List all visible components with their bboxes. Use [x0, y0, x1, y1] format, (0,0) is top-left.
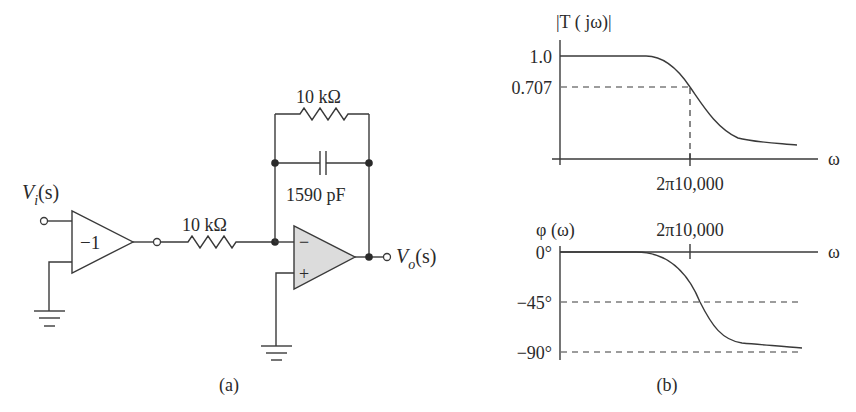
magnitude-xtick-label: 2π10,000	[656, 174, 724, 194]
junction-dot-icon	[271, 159, 279, 167]
caption-a: (a)	[219, 375, 239, 396]
magnitude-ytick-1: 1.0	[530, 47, 553, 67]
magnitude-curve	[560, 56, 797, 145]
junction-dot-icon	[365, 253, 373, 261]
noninverting-ground-wire	[276, 273, 294, 346]
inverter-output-terminal-icon	[154, 239, 161, 246]
magnitude-ytick-0707: 0.707	[512, 78, 553, 98]
bode-panel-b: |T ( jω)| ω 1.0 0.707 2π10,000 φ (ω) 2π1…	[512, 12, 841, 396]
output-label: Vo(s)	[396, 245, 436, 272]
phase-ytick-0: 0°	[536, 243, 552, 263]
ground-icon	[34, 311, 65, 326]
input-resistor-icon	[161, 236, 275, 248]
opamp-minus-label: −	[299, 232, 309, 252]
input-resistor-label: 10 kΩ	[182, 215, 227, 235]
feedback-capacitor-label: 1590 pF	[286, 185, 346, 205]
phase-curve	[560, 252, 802, 348]
output-terminal-icon	[384, 254, 391, 261]
input-terminal-icon	[41, 218, 48, 225]
feedback-resistor-label: 10 kΩ	[296, 87, 341, 107]
caption-b: (b)	[657, 375, 678, 396]
inverter-ground-wire	[49, 262, 72, 311]
opamp-plus-label: +	[299, 264, 309, 284]
phase-xtick-label: 2π10,000	[656, 220, 724, 240]
ground-icon	[261, 346, 292, 360]
input-label: Vi(s)	[22, 181, 59, 208]
magnitude-plot: |T ( jω)| ω 1.0 0.707 2π10,000	[512, 12, 841, 194]
figure-canvas: Vi(s) −1 10 kΩ 10 kΩ	[0, 0, 856, 412]
magnitude-xlabel: ω	[828, 149, 840, 169]
phase-xlabel: ω	[828, 242, 840, 262]
junction-dot-icon	[365, 159, 373, 167]
circuit-panel-a: Vi(s) −1 10 kΩ 10 kΩ	[22, 87, 436, 396]
phase-ylabel: φ (ω)	[536, 220, 575, 241]
phase-ytick-45: −45°	[517, 293, 552, 313]
magnitude-ylabel: |T ( jω)|	[556, 12, 612, 33]
inverter-gain-label: −1	[80, 232, 100, 253]
phase-ytick-90: −90°	[517, 343, 552, 363]
phase-plot: φ (ω) 2π10,000 ω 0° −45° −90°	[517, 220, 840, 363]
feedback-capacitor-icon	[275, 151, 369, 175]
feedback-resistor-icon	[275, 108, 369, 120]
